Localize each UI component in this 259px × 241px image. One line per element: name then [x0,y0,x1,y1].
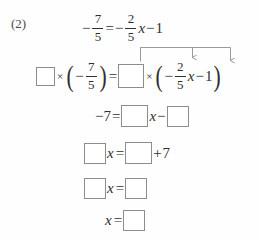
multiplication-sign: × [146,70,152,82]
constant-one: 1 [205,68,213,85]
equals-sign: = [109,68,117,85]
fraction-denominator: 5 [93,30,104,45]
fraction-numerator: 7 [93,12,104,27]
minus-sign: − [164,68,172,85]
minus-sign: − [115,20,123,37]
fraction-two-fifths: 2 5 [175,60,186,92]
answer-box-solution[interactable] [123,210,145,231]
answer-box-coefficient[interactable] [121,105,148,127]
variable-x: x [107,145,114,162]
equals-sign: = [105,20,113,37]
variable-x: x [107,180,114,197]
minus-sign: − [157,108,165,125]
minus-sign: − [75,68,83,85]
equation-line-expanded: −7 = x − [95,105,189,127]
fraction-denominator: 5 [126,30,137,45]
fraction-denominator: 5 [175,78,186,93]
equals-sign: = [116,180,124,197]
minus-sign: − [196,68,204,85]
fraction-denominator: 5 [86,78,97,93]
equals-sign: = [114,212,122,229]
answer-box-multiplier-left[interactable] [36,67,55,86]
plus-sign: + [153,145,161,162]
left-parenthesis: ( [156,65,163,87]
right-parenthesis: ) [99,65,106,87]
equation-line-move-constant: x = + 7 [84,142,170,164]
fraction-numerator: 2 [175,60,186,75]
answer-box-value[interactable] [125,178,147,199]
right-parenthesis: ) [214,65,221,87]
variable-x: x [149,108,156,125]
minus-sign: − [82,20,90,37]
variable-x: x [138,20,145,37]
equals-sign: = [116,145,124,162]
minus-sign: − [146,20,154,37]
fraction-seven-fifths: 7 5 [86,60,97,92]
problem-number-label: (2) [11,16,26,32]
equation-line-original: − 7 5 = − 2 5 x − 1 [82,12,163,44]
equation-line-multiply: × ( − 7 5 ) = × ( − 2 5 x − 1 ) [36,60,222,92]
lhs-negative-seven: −7 [95,108,111,125]
equation-line-simplified: x = [84,178,147,199]
worksheet-page: (2) − 7 5 = − 2 5 x − 1 × ( − 7 5 ) = [0,0,259,241]
fraction-numerator: 2 [126,12,137,27]
equation-line-solution: x = [104,210,145,231]
answer-box-coefficient[interactable] [84,178,106,199]
answer-box-coefficient[interactable] [84,143,106,164]
fraction-numerator: 7 [86,60,97,75]
fraction-two-fifths: 2 5 [125,12,136,44]
variable-x: x [105,212,112,229]
variable-x: x [188,68,195,85]
equals-sign: = [112,108,120,125]
answer-box-multiplier-right[interactable] [118,64,144,88]
fraction-seven-fifths: 7 5 [92,12,103,44]
multiplication-sign: × [57,70,63,82]
answer-box-value[interactable] [125,142,152,164]
constant-one: 1 [156,20,164,37]
answer-box-constant[interactable] [167,106,189,127]
addend-seven: 7 [163,145,171,162]
left-parenthesis: ( [67,65,74,87]
